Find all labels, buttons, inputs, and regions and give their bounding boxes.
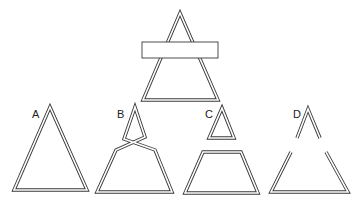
figure-canvas: A B C D — [0, 0, 362, 203]
option-d: D — [271, 108, 348, 192]
option-d-label: D — [293, 108, 301, 120]
option-a: A — [14, 107, 87, 190]
top-occluded-triangle — [142, 13, 218, 100]
option-c: C — [185, 108, 258, 193]
occluder-rectangle — [142, 42, 218, 58]
option-a-label: A — [32, 108, 40, 120]
option-c-label: C — [205, 108, 213, 120]
option-b: B — [97, 107, 172, 192]
option-b-label: B — [117, 108, 124, 120]
